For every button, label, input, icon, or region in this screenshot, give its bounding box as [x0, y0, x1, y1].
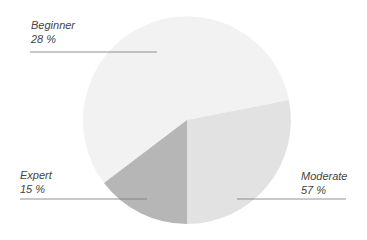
label-beginner: Beginner 28 %	[31, 18, 75, 46]
label-expert-pct: 15 %	[20, 182, 52, 196]
label-expert-name: Expert	[20, 168, 52, 182]
slice-moderate	[187, 100, 291, 224]
label-beginner-name: Beginner	[31, 18, 75, 32]
label-moderate-name: Moderate	[301, 169, 347, 183]
label-moderate-pct: 57 %	[301, 183, 347, 197]
label-beginner-pct: 28 %	[31, 32, 75, 46]
label-moderate: Moderate 57 %	[301, 169, 347, 197]
label-expert: Expert 15 %	[20, 168, 52, 196]
